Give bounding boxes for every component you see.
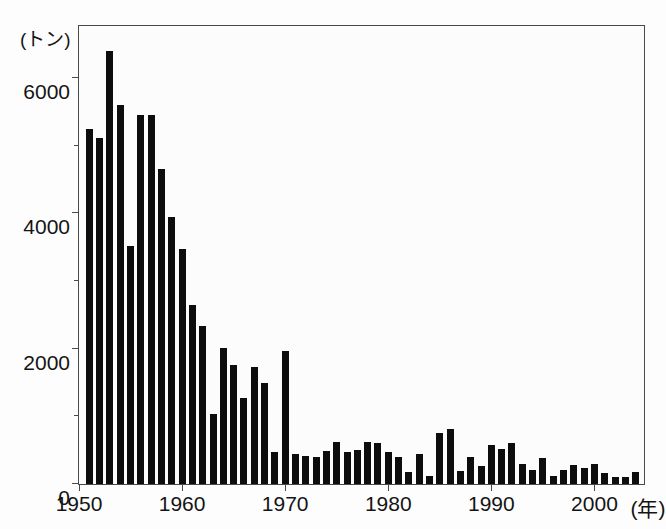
bar — [364, 442, 371, 484]
bar — [292, 454, 299, 484]
bar — [261, 383, 268, 484]
x-tick — [388, 484, 389, 491]
bar — [457, 471, 464, 484]
bar — [570, 465, 577, 484]
bar — [478, 466, 485, 484]
x-tick-label: 1970 — [262, 492, 309, 516]
plot-area: 0200040006000 195019601970198019902000(年… — [78, 25, 645, 485]
x-tick — [285, 484, 286, 491]
bar — [488, 445, 495, 484]
bar — [158, 169, 165, 484]
bar — [168, 217, 175, 484]
x-tick — [182, 484, 183, 491]
y-axis-unit-label: (トン) — [20, 24, 71, 51]
bar — [271, 452, 278, 484]
x-tick — [79, 484, 80, 491]
y-tick — [72, 212, 79, 213]
bar — [426, 476, 433, 484]
bar — [86, 129, 93, 484]
bar-series — [79, 26, 644, 484]
bar — [251, 367, 258, 484]
bar — [313, 457, 320, 484]
bar — [550, 476, 557, 484]
bar — [240, 398, 247, 484]
bar — [199, 326, 206, 484]
x-tick-label: 1960 — [159, 492, 206, 516]
x-tick — [594, 484, 595, 491]
bar — [127, 246, 134, 484]
x-tick-label: 1980 — [365, 492, 412, 516]
y-tick — [72, 77, 79, 78]
bar — [220, 348, 227, 484]
bar — [581, 468, 588, 484]
bar — [529, 470, 536, 484]
bar — [416, 454, 423, 484]
bar — [96, 138, 103, 484]
bar — [230, 365, 237, 484]
bar — [601, 473, 608, 484]
bar — [179, 249, 186, 484]
bar — [591, 464, 598, 484]
bar — [612, 477, 619, 484]
bar — [405, 472, 412, 484]
y-tick-minor — [74, 415, 79, 416]
bar — [210, 414, 217, 484]
bar — [632, 472, 639, 484]
bar — [622, 477, 629, 484]
bar — [117, 105, 124, 485]
bar — [498, 449, 505, 484]
bar — [282, 351, 289, 484]
x-tick-label: 1990 — [468, 492, 515, 516]
chart-figure: (トン) 0200040006000 195019601970198019902… — [0, 0, 666, 529]
x-axis-unit-label: (年) — [630, 492, 665, 522]
y-tick — [72, 483, 79, 484]
bar — [189, 305, 196, 484]
bar — [395, 457, 402, 484]
bar — [137, 115, 144, 484]
bar — [508, 443, 515, 484]
bar — [467, 457, 474, 484]
bar — [323, 451, 330, 484]
plot-inner: 0200040006000 195019601970198019902000(年… — [79, 26, 644, 484]
bar — [333, 442, 340, 484]
bar — [447, 429, 454, 484]
bar — [560, 470, 567, 484]
x-tick — [491, 484, 492, 491]
y-tick-minor — [74, 145, 79, 146]
bar — [148, 115, 155, 484]
bar — [519, 464, 526, 484]
bar — [385, 452, 392, 484]
bar — [374, 443, 381, 484]
bar — [354, 450, 361, 484]
bar — [436, 433, 443, 484]
bar — [106, 51, 113, 484]
bar — [539, 458, 546, 484]
y-tick — [72, 348, 79, 349]
bar — [302, 456, 309, 484]
y-tick-minor — [74, 280, 79, 281]
x-tick-label: 1950 — [56, 492, 103, 516]
x-tick-label: 2000 — [571, 492, 618, 516]
bar — [344, 452, 351, 484]
